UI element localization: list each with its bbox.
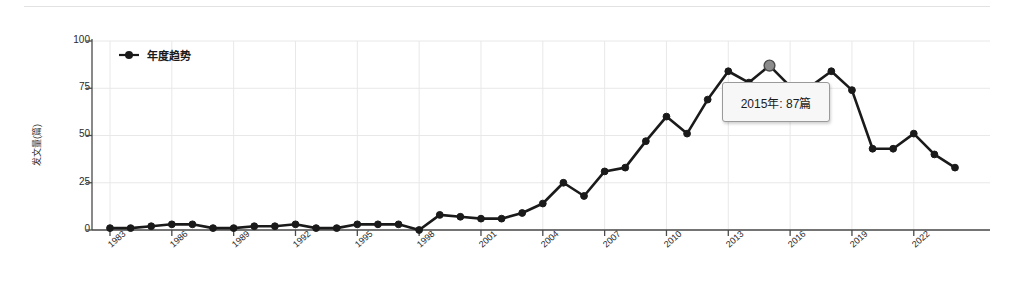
data-point-highlighted[interactable]	[764, 60, 775, 71]
y-tick-marks	[86, 41, 92, 230]
data-point[interactable]	[684, 130, 691, 137]
legend-marker-icon	[118, 49, 140, 61]
data-point[interactable]	[127, 225, 134, 232]
data-point[interactable]	[478, 215, 485, 222]
data-point[interactable]	[539, 200, 546, 207]
chart-legend: 年度趋势	[118, 47, 191, 63]
data-point[interactable]	[869, 145, 876, 152]
data-point[interactable]	[148, 223, 155, 230]
data-point[interactable]	[457, 213, 464, 220]
legend-label: 年度趋势	[147, 47, 191, 63]
data-point[interactable]	[849, 87, 856, 94]
data-point[interactable]	[642, 138, 649, 145]
data-point[interactable]	[107, 225, 114, 232]
data-point[interactable]	[230, 225, 237, 232]
data-point[interactable]	[210, 225, 217, 232]
plot-canvas	[0, 0, 1017, 302]
data-point[interactable]	[271, 223, 278, 230]
data-point[interactable]	[395, 221, 402, 228]
data-point[interactable]	[704, 96, 711, 103]
data-point[interactable]	[828, 68, 835, 75]
data-point[interactable]	[931, 151, 938, 158]
data-point[interactable]	[168, 221, 175, 228]
data-point[interactable]	[519, 210, 526, 217]
data-point[interactable]	[581, 193, 588, 200]
data-point[interactable]	[622, 164, 629, 171]
data-point[interactable]	[416, 227, 423, 234]
data-point[interactable]	[910, 130, 917, 137]
data-point[interactable]	[292, 221, 299, 228]
data-point[interactable]	[333, 225, 340, 232]
data-point[interactable]	[725, 68, 732, 75]
data-point[interactable]	[375, 221, 382, 228]
data-point[interactable]	[498, 215, 505, 222]
data-point[interactable]	[189, 221, 196, 228]
highlighted-data-point[interactable]	[764, 60, 775, 71]
data-point[interactable]	[560, 179, 567, 186]
chart-card: 发文量(篇) 100 75 50 25 0 198319861989199219…	[0, 0, 1017, 302]
data-point[interactable]	[952, 164, 959, 171]
data-point[interactable]	[601, 168, 608, 175]
data-tooltip: 2015年: 87篇	[722, 82, 830, 122]
data-point[interactable]	[663, 113, 670, 120]
data-point[interactable]	[251, 223, 258, 230]
data-point[interactable]	[313, 225, 320, 232]
data-point[interactable]	[890, 145, 897, 152]
data-point[interactable]	[436, 211, 443, 218]
line-chart: 发文量(篇) 100 75 50 25 0 198319861989199219…	[0, 0, 1017, 302]
data-point[interactable]	[354, 221, 361, 228]
